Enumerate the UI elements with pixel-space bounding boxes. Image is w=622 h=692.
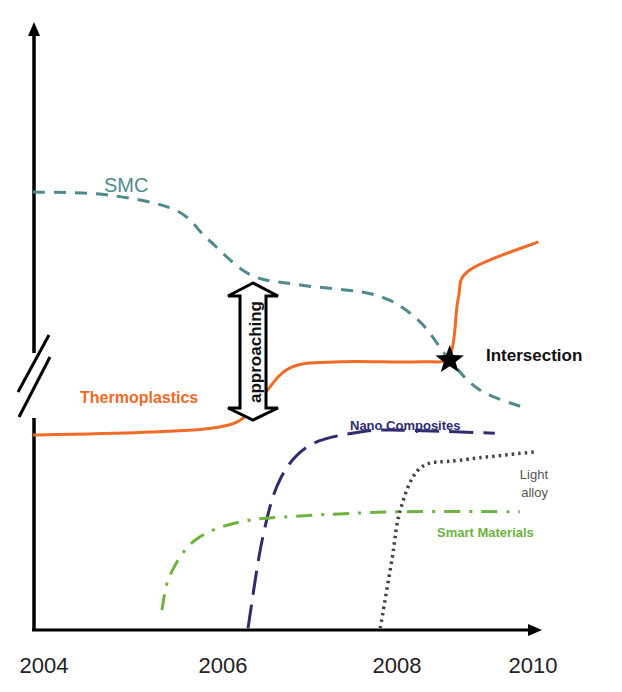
x-axis-arrow-icon xyxy=(528,624,542,636)
series-line-thermoplastics xyxy=(33,242,538,435)
chart: 2004 2006 2008 2010 approaching SMC Ther… xyxy=(0,0,622,692)
nano-composites-label: Nano Composites xyxy=(350,418,461,433)
approaching-arrow: approaching xyxy=(228,283,278,420)
smc-label: SMC xyxy=(104,174,148,196)
intersection-label: Intersection xyxy=(486,346,582,365)
x-tick-label: 2008 xyxy=(373,653,422,678)
axes xyxy=(18,22,542,636)
series-layer xyxy=(33,192,538,628)
x-tick-label: 2004 xyxy=(20,653,69,678)
light-alloy-label-line2: alloy xyxy=(521,485,548,500)
light-alloy-label-line1: Light xyxy=(520,467,549,482)
thermoplastics-label: Thermoplastics xyxy=(80,389,198,406)
series-line-light-alloy xyxy=(380,452,535,628)
smart-materials-label: Smart Materials xyxy=(437,525,534,540)
x-tick-labels: 2004 2006 2008 2010 xyxy=(20,653,558,678)
y-axis-arrow-icon xyxy=(28,22,40,36)
star-layer xyxy=(435,345,464,372)
x-tick-label: 2006 xyxy=(199,653,248,678)
intersection-star-icon xyxy=(435,345,464,372)
x-tick-label: 2010 xyxy=(509,653,558,678)
axis-break-mark-2 xyxy=(19,357,50,417)
approaching-label: approaching xyxy=(246,301,265,403)
